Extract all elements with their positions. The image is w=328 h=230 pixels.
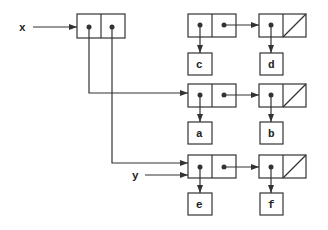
atom-d: d [268, 59, 275, 71]
box-pointer-diagram: x c d [0, 0, 328, 230]
row-1: c d [188, 14, 306, 75]
row-2: a b [188, 84, 306, 144]
row-3: e f [188, 155, 306, 215]
pair-x [77, 14, 188, 163]
variable-x: x [19, 22, 77, 34]
variable-x-label: x [19, 22, 26, 34]
atom-f: f [268, 199, 275, 211]
atom-e: e [196, 199, 203, 211]
variable-y-label: y [132, 170, 139, 182]
variable-y: y [132, 170, 188, 182]
atom-a: a [196, 128, 203, 140]
atom-b: b [268, 128, 275, 140]
atom-c: c [196, 59, 203, 71]
